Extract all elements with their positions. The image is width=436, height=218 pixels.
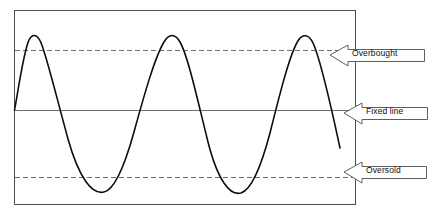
diagram-canvas: Overbought Fixed line Oversold — [0, 0, 436, 218]
plot-border-box — [15, 11, 356, 205]
oversold-callout-label: Oversold — [366, 166, 401, 175]
overbought-callout-label: Overbought — [352, 49, 397, 58]
fixed-line-callout-label: Fixed line — [366, 107, 403, 116]
oscillator-wave-line — [15, 35, 341, 193]
